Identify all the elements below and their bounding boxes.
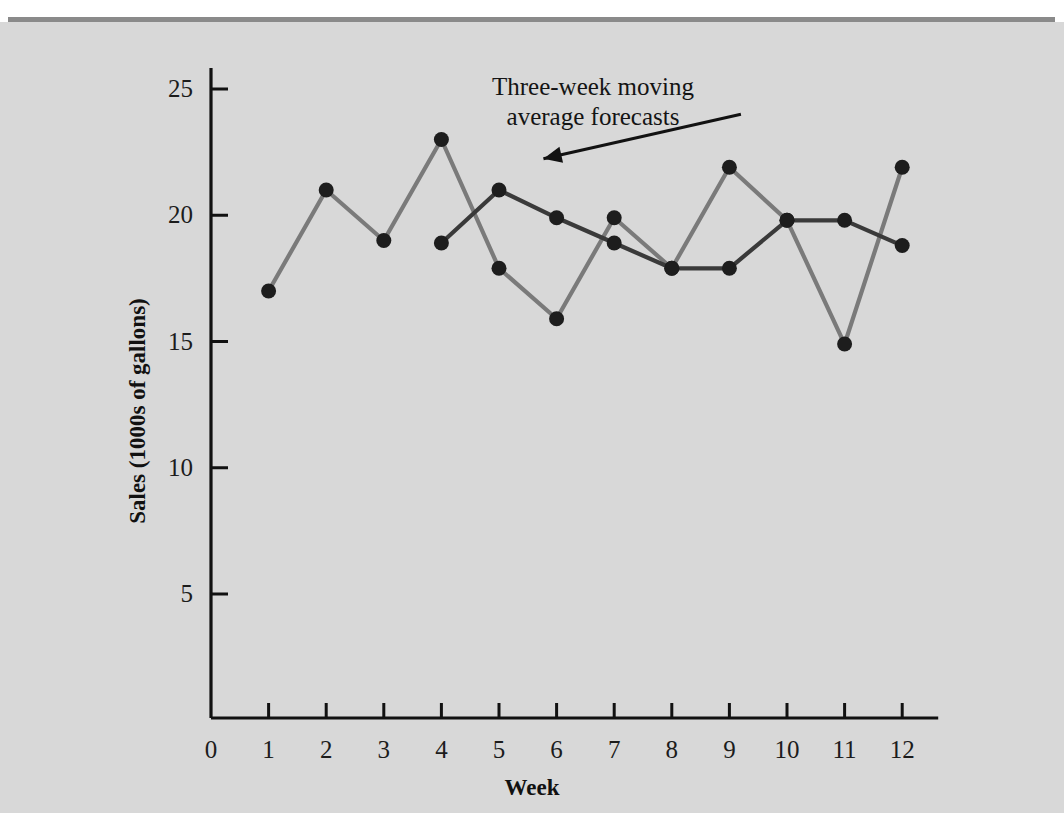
data-point	[722, 160, 737, 175]
x-tick-label: 7	[584, 736, 644, 764]
data-point	[837, 337, 852, 352]
x-tick-label: 11	[815, 736, 875, 764]
data-point	[319, 183, 334, 198]
x-tick-label: 8	[642, 736, 702, 764]
data-point	[492, 183, 507, 198]
x-axis-label: Week	[0, 775, 1064, 801]
x-tick-label: 12	[872, 736, 932, 764]
x-tick-label: 1	[239, 736, 299, 764]
x-tick-label: 5	[469, 736, 529, 764]
y-tick-label: 25	[133, 75, 193, 103]
data-point	[837, 213, 852, 228]
arrow-head	[543, 147, 563, 163]
x-tick-label: 3	[354, 736, 414, 764]
x-tick-label: 10	[757, 736, 817, 764]
data-series-group	[261, 132, 910, 352]
data-point	[261, 284, 276, 299]
x-tick-label: 4	[411, 736, 471, 764]
chart-figure: 5101520250123456789101112 Sales (1000s o…	[0, 0, 1064, 813]
data-point	[376, 233, 391, 248]
data-point	[664, 261, 679, 276]
series-line-three-week-moving-average-forecasts	[441, 190, 902, 268]
x-tick-label: 6	[527, 736, 587, 764]
x-tick-label: 9	[699, 736, 759, 764]
data-point	[607, 210, 622, 225]
data-point	[549, 210, 564, 225]
data-point	[492, 261, 507, 276]
data-point	[895, 160, 910, 175]
data-point	[434, 236, 449, 251]
axes	[211, 68, 938, 718]
x-tick-label: 2	[296, 736, 356, 764]
data-point	[434, 132, 449, 147]
data-point	[607, 236, 622, 251]
data-point	[549, 311, 564, 326]
annotation-line-1: Three-week moving	[443, 72, 743, 102]
data-point	[722, 261, 737, 276]
data-point	[895, 238, 910, 253]
y-axis-label: Sales (1000s of gallons)	[125, 221, 151, 601]
data-point	[780, 213, 795, 228]
series-line-actual-sales	[269, 140, 903, 345]
annotation-line-2: average forecasts	[443, 102, 743, 132]
x-tick-label: 0	[181, 736, 241, 764]
annotation-text: Three-week moving average forecasts	[443, 72, 743, 131]
